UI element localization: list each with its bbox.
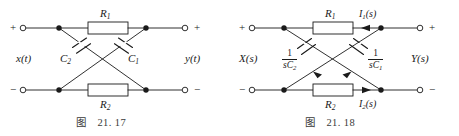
z2-numerator: 1: [282, 49, 297, 59]
caption-number-left: 21. 17: [97, 117, 126, 128]
terminal-circles-right: [249, 25, 423, 93]
impedance-z2-plates: [298, 39, 316, 55]
component-label-r2-right: R2: [325, 99, 335, 112]
figure-caption-right: 图21. 18: [305, 114, 355, 129]
node-bottom-left: [281, 87, 286, 92]
arrow-diagonal-left: [313, 72, 322, 79]
current-label-i1: I1(s): [359, 9, 376, 21]
caption-number-right: 21. 18: [326, 117, 355, 128]
arrow-diagonal-right: [343, 72, 352, 79]
port-label-input-left: x(t): [16, 53, 31, 64]
component-label-z1-right: 1 sC1: [368, 49, 383, 71]
node-bottom-right: [378, 87, 383, 92]
node-top-left: [56, 25, 61, 30]
component-label-r1-left: R1: [100, 8, 110, 21]
terminal-sign-output-plus: +: [194, 22, 200, 33]
terminal-input-minus: [20, 87, 26, 93]
figure-caption-left: 图21. 17: [76, 114, 126, 129]
terminal-output-plus: [182, 25, 188, 31]
arrow-i1-top: [361, 25, 370, 32]
terminal-output-minus: [182, 87, 188, 93]
terminal-input-plus: [249, 25, 255, 31]
terminal-sign-input-plus: +: [239, 22, 245, 33]
z1-numerator: 1: [368, 49, 383, 59]
node-top-right: [143, 25, 148, 30]
component-label-c1-left: C1: [128, 53, 139, 66]
figure-right: + + − − X(s) Y(s) R1 R2 1 sC2 1 sC1 I1(s…: [229, 0, 459, 136]
z1-denominator: sC1: [368, 61, 383, 71]
terminal-output-plus: [417, 25, 423, 31]
resistor-r2-body: [313, 84, 353, 96]
component-label-z2-right: 1 sC2: [282, 49, 297, 71]
node-bottom-left: [56, 87, 61, 92]
current-label-i2: I2(s): [359, 99, 376, 111]
component-label-r1-right: R1: [325, 8, 335, 21]
current-arrowheads: [313, 25, 371, 94]
arrow-i2-bottom: [362, 87, 371, 94]
component-label-r2-left: R2: [100, 99, 110, 112]
terminal-circles-left: [20, 25, 188, 93]
terminal-input-plus: [20, 25, 26, 31]
caption-prefix-left: 图: [76, 117, 86, 128]
node-top-right: [378, 25, 383, 30]
impedance-z1-plates: [350, 39, 368, 55]
z2-denominator: sC2: [282, 61, 297, 71]
terminal-sign-output-minus: −: [194, 84, 200, 95]
port-label-input-right: X(s): [239, 53, 257, 64]
terminal-output-minus: [417, 87, 423, 93]
capacitor-c1-plates: [115, 38, 133, 53]
node-top-left: [281, 25, 286, 30]
resistor-r2-body: [88, 84, 128, 96]
resistor-r1-body: [313, 22, 353, 34]
figure-left: + + − − x(t) y(t) R1 R2 C2 C1 图21. 17: [0, 0, 230, 136]
port-label-output-right: Y(s): [411, 53, 429, 64]
caption-prefix-right: 图: [305, 117, 315, 128]
capacitor-c2-plates: [73, 38, 91, 53]
node-bottom-right: [143, 87, 148, 92]
terminal-input-minus: [249, 87, 255, 93]
terminal-sign-input-plus: +: [10, 22, 16, 33]
component-label-c2-left: C2: [60, 53, 71, 66]
terminal-sign-input-minus: −: [239, 84, 245, 95]
terminal-sign-output-plus: +: [429, 22, 435, 33]
port-label-output-left: y(t): [185, 53, 200, 64]
terminal-sign-output-minus: −: [429, 84, 435, 95]
figure-page: + + − − x(t) y(t) R1 R2 C2 C1 图21. 17: [0, 0, 459, 136]
resistor-r1-body: [88, 22, 128, 34]
terminal-sign-input-minus: −: [10, 84, 16, 95]
